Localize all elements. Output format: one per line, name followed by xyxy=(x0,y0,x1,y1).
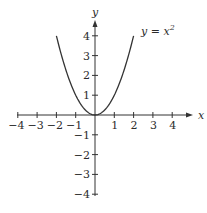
x-tick-label: 4 xyxy=(169,119,176,132)
x-tick-label: 1 xyxy=(111,119,118,132)
x-tick-label: 2 xyxy=(131,119,138,132)
x-tick-label: −3 xyxy=(27,119,43,132)
x-axis-arrow-icon xyxy=(186,113,193,118)
y-tick-label: 2 xyxy=(83,69,90,82)
x-axis-label: x xyxy=(198,109,205,122)
graph-canvas: −4−3−2−11234 −4−3−2−11234 x y y = x2 xyxy=(0,0,207,213)
y-tick-label: 3 xyxy=(83,50,90,63)
x-tick-label: 3 xyxy=(150,119,157,132)
y-tick-label: 4 xyxy=(83,30,90,43)
y-tick-label: 1 xyxy=(83,89,90,102)
y-axis-label: y xyxy=(91,6,99,19)
curve-label-base: y = x xyxy=(140,25,170,38)
y-axis-arrow-icon xyxy=(93,20,98,27)
y-axis xyxy=(93,20,98,196)
y-tick-label: −2 xyxy=(74,149,90,162)
curve-label: y = x2 xyxy=(140,23,175,38)
x-tick-label: −4 xyxy=(8,119,24,132)
x-axis xyxy=(17,113,193,118)
y-tick-label: −1 xyxy=(74,129,90,142)
curve-label-exponent: 2 xyxy=(169,23,175,32)
x-tick-label: −2 xyxy=(47,119,63,132)
y-tick-label: −3 xyxy=(74,168,90,181)
y-tick-label: −4 xyxy=(74,188,90,201)
